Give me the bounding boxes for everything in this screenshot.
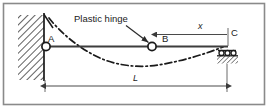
label-point-b: B [162, 33, 168, 44]
plastic-hinge-label: Plastic hinge [74, 13, 128, 24]
label-dimension-x: x [197, 21, 203, 31]
plastic-hinge-b [148, 42, 156, 50]
beam-diagram-figure: Plastic hinge A B C x L [0, 0, 268, 108]
diagram-canvas: Plastic hinge A B C x L [0, 0, 268, 108]
label-dimension-l: L [133, 73, 138, 83]
roller-support-c [217, 51, 238, 64]
label-point-c: C [231, 27, 238, 38]
left-fixed-wall [18, 13, 44, 81]
label-point-a: A [48, 33, 55, 44]
